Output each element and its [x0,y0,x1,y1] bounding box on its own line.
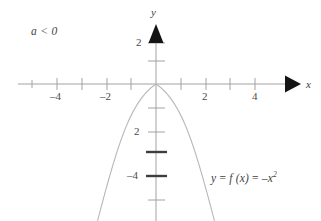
x-tick-label-neg2: –2 [100,91,111,102]
x-axis-arrowhead [285,76,301,93]
y-tick-label-neg2: 2 [134,126,140,137]
y-axis-arrowhead [149,24,164,43]
y-tick-label-pos2: 2 [136,37,142,48]
equation-equals-2: = [249,172,262,184]
condition-annotation: a < 0 [31,26,58,38]
x-tick-label-pos4: 4 [252,91,258,102]
equation-neg-x: –x [262,172,273,184]
y-tick-label-neg4: –4 [127,170,138,181]
equation-annotation: y = f (x) = –x2 [211,171,277,184]
x-tick-label-neg4: –4 [50,91,61,102]
y-axis-label: y [151,7,156,18]
x-tick-label-pos2: 2 [202,91,208,102]
x-axis-label: x [306,79,311,90]
equation-exponent: 2 [273,170,277,179]
graph-figure: a < 0 y x –4 –2 2 4 2 2 –4 y = f (x) = –… [0,0,321,221]
equation-fx: f (x) [229,172,249,184]
equation-equals-1: = [216,172,229,184]
